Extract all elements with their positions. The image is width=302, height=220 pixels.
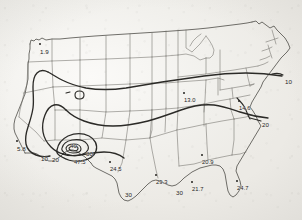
- map-value-label: 47.5: [74, 160, 86, 166]
- map-value-label: 29.3: [156, 180, 168, 186]
- station-dot: [183, 92, 185, 94]
- map-value-label: 10: [285, 79, 292, 85]
- contour-10-west: [26, 71, 50, 157]
- map-value-label: 13.0: [184, 98, 196, 104]
- map-value-label: 24.5: [110, 167, 122, 173]
- contour-small-utah: [75, 91, 84, 99]
- contour-lines: [26, 71, 283, 162]
- contour-map-figure: 1.95.81020403047.524.53029.33021.720.924…: [0, 0, 302, 220]
- contour-20-main: [66, 105, 268, 126]
- map-value-label: 1.9: [40, 49, 49, 55]
- map-value-label: 30: [125, 192, 132, 198]
- map-value-label: 40: [70, 143, 77, 149]
- map-value-label: 20: [52, 157, 59, 163]
- map-value-label: 20: [262, 122, 269, 128]
- map-value-label: 14.6: [239, 106, 251, 112]
- map-value-label: 30: [176, 190, 183, 196]
- map-value-label: 30: [86, 151, 93, 157]
- map-value-label: 20.9: [202, 160, 214, 166]
- contour-10-north: [48, 72, 282, 90]
- station-dot: [236, 180, 238, 182]
- station-dot: [201, 154, 203, 156]
- station-dot: [16, 140, 18, 142]
- station-dot: [155, 174, 157, 176]
- contour-carolina: [250, 118, 261, 121]
- station-dot: [109, 161, 111, 163]
- station-dot: [238, 100, 240, 102]
- map-value-label: 21.7: [192, 187, 204, 193]
- station-dot: [191, 181, 193, 183]
- map-value-label: 10: [41, 156, 48, 162]
- map-vector-layer: [0, 0, 302, 220]
- map-value-label: 24.7: [237, 186, 249, 192]
- contour-tick-idaho: [66, 92, 70, 93]
- map-value-label: 5.8: [17, 146, 26, 152]
- station-dot: [39, 43, 41, 45]
